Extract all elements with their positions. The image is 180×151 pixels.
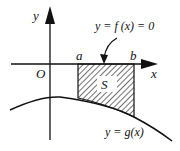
f-equation-label: y = f (x) = 0 <box>94 19 154 33</box>
point-b-label: b <box>130 48 137 63</box>
origin-label: O <box>36 66 46 81</box>
g-equation-label: y = g(x) <box>104 125 144 139</box>
y-axis-arrow-icon <box>45 6 55 24</box>
curve-g <box>10 97 172 141</box>
pointer-arrow-head-icon <box>100 54 108 64</box>
point-a-label: a <box>76 48 83 63</box>
area-between-curves-diagram: y x O a b S y = f (x) = 0 y = g(x) <box>0 0 180 151</box>
y-axis-label: y <box>31 8 39 23</box>
x-axis-label: x <box>150 66 157 81</box>
region-s-label: S <box>101 77 108 92</box>
